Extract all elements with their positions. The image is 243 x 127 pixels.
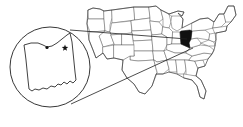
state-wyoming [110,21,132,35]
city-dot-marker [45,46,48,49]
state-minnesota [149,6,163,22]
state-arizona [103,45,114,59]
state-new-jersey [209,33,216,42]
state-florida [184,74,206,99]
state-iowa [150,21,163,35]
inset-group [10,27,90,107]
state-north-dakota [134,7,150,20]
map-canvas [0,0,243,127]
state-alabama [176,60,186,74]
locator-map-figure: Ohio locator map with magnified inset Un… [0,0,243,127]
state-texas [122,56,157,94]
state-kansas [133,40,153,51]
us-state-boundaries [87,6,236,99]
state-mississippi [167,60,177,72]
state-oregon [87,19,105,32]
state-pennsylvania [191,30,210,40]
